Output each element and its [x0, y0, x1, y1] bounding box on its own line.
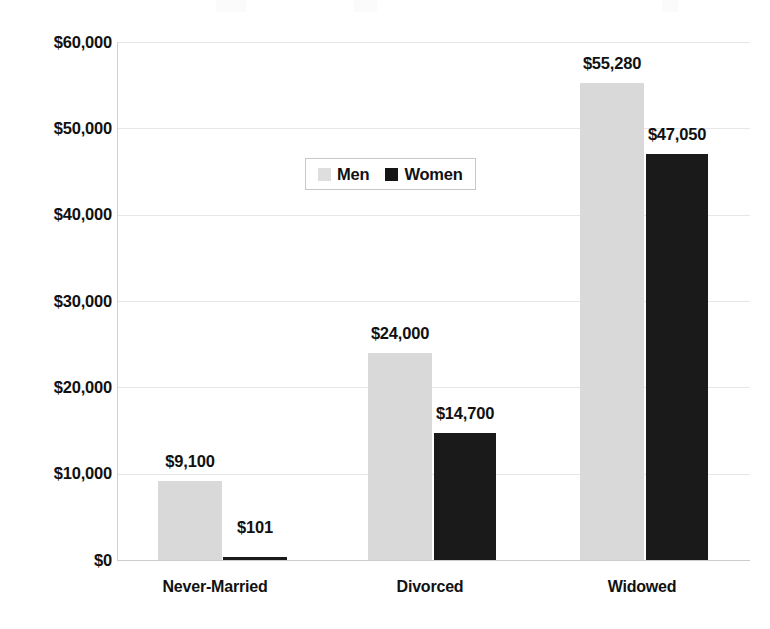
bar-women-never-married[interactable] — [223, 557, 287, 560]
bar-men-divorced[interactable] — [368, 353, 432, 560]
top-edge-artifact — [0, 0, 770, 12]
legend-item-men[interactable]: Men — [318, 165, 369, 184]
women-swatch-icon — [385, 168, 398, 181]
bar-label-men-never-married: $9,100 — [128, 452, 252, 471]
bar-men-widowed[interactable] — [580, 83, 644, 560]
bar-label-women-divorced: $14,700 — [403, 404, 527, 423]
y-tick-0: $0 — [4, 551, 112, 570]
y-tick-10000: $10,000 — [4, 464, 112, 483]
y-tick-20000: $20,000 — [4, 378, 112, 397]
bar-women-divorced[interactable] — [434, 433, 496, 560]
chart-legend: Men Women — [305, 158, 476, 190]
legend-item-women[interactable]: Women — [385, 165, 462, 184]
bar-label-men-widowed: $55,280 — [550, 54, 674, 73]
legend-label-women: Women — [404, 165, 462, 184]
legend-label-men: Men — [337, 165, 369, 184]
bar-label-women-widowed: $47,050 — [615, 125, 739, 144]
y-tick-40000: $40,000 — [4, 205, 112, 224]
y-tick-60000: $60,000 — [4, 33, 112, 52]
y-tick-50000: $50,000 — [4, 119, 112, 138]
plot-area — [118, 42, 750, 560]
x-axis-line — [117, 560, 750, 561]
bar-women-widowed[interactable] — [646, 154, 708, 560]
bar-label-men-divorced: $24,000 — [338, 324, 462, 343]
y-axis-labels: $60,000 $50,000 $40,000 $30,000 $20,000 … — [0, 0, 112, 629]
x-label-divorced: Divorced — [325, 578, 535, 596]
men-swatch-icon — [318, 168, 331, 181]
y-tick-30000: $30,000 — [4, 292, 112, 311]
x-label-widowed: Widowed — [537, 578, 747, 596]
bar-label-women-never-married: $101 — [193, 518, 317, 537]
gridline-60000 — [118, 42, 750, 43]
bar-chart: $60,000 $50,000 $40,000 $30,000 $20,000 … — [0, 0, 770, 629]
x-label-never-married: Never-Married — [110, 578, 320, 596]
